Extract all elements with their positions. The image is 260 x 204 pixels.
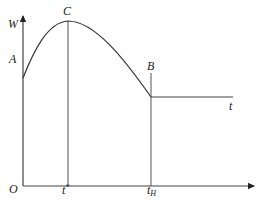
t-star-sup: * xyxy=(65,183,69,192)
point-a-label: A xyxy=(9,53,16,65)
origin-label: O xyxy=(9,183,18,195)
t-h-tick-label: tH xyxy=(147,184,156,198)
t-h-sub: H xyxy=(150,189,156,198)
t-star-tick-label: t* xyxy=(62,184,69,196)
point-c-label: C xyxy=(63,5,71,17)
x-axis-label: t xyxy=(229,100,232,112)
y-axis-label: W xyxy=(8,18,18,30)
wealth-time-diagram xyxy=(0,0,260,204)
point-b-label: B xyxy=(147,60,154,72)
wealth-curve xyxy=(23,21,151,97)
